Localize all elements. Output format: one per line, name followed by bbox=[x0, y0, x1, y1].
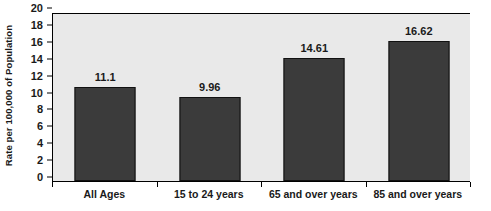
bar-group: 16.62 bbox=[367, 14, 472, 181]
x-axis-tick-label: 85 and over years bbox=[373, 188, 462, 201]
plot-area: 11.19.9614.6116.62 bbox=[52, 13, 470, 182]
bar-group: 14.61 bbox=[262, 14, 367, 181]
bars-layer: 11.19.9614.6116.62 bbox=[53, 14, 470, 181]
x-axis-tick-mark bbox=[157, 182, 158, 187]
bar bbox=[388, 41, 449, 181]
x-axis-tick-mark bbox=[52, 182, 53, 187]
x-axis-tick-labels: All Ages15 to 24 years65 and over years8… bbox=[52, 188, 470, 208]
bar-value-label: 9.96 bbox=[199, 82, 220, 93]
y-axis-title: Rate per 100,000 of Population bbox=[0, 0, 17, 190]
y-axis-tick-label: 4 bbox=[37, 138, 43, 149]
x-axis-tick-label: All Ages bbox=[83, 188, 125, 201]
x-axis-tick-mark bbox=[261, 182, 262, 187]
x-axis-tick-label: 15 to 24 years bbox=[174, 188, 243, 201]
x-axis-tick-label: 65 and over years bbox=[269, 188, 358, 201]
y-axis-tick-label: 18 bbox=[31, 19, 43, 30]
y-axis-tick-label: 2 bbox=[37, 155, 43, 166]
y-axis-tick-label: 14 bbox=[31, 53, 43, 64]
bar-chart: Rate per 100,000 of Population 024681012… bbox=[0, 0, 491, 211]
bar bbox=[75, 87, 136, 181]
y-axis-tick-label: 12 bbox=[31, 70, 43, 81]
y-axis-tick-label: 0 bbox=[37, 172, 43, 183]
y-axis-tick-label: 10 bbox=[31, 87, 43, 98]
x-axis-tick-mark bbox=[470, 182, 471, 187]
y-axis-tick-label: 16 bbox=[31, 36, 43, 47]
bar-value-label: 16.62 bbox=[405, 26, 433, 37]
y-axis-tick-label: 6 bbox=[37, 121, 43, 132]
bar-group: 11.1 bbox=[53, 14, 158, 181]
bar-value-label: 11.1 bbox=[95, 72, 116, 83]
x-axis-tick-mark bbox=[366, 182, 367, 187]
y-axis-tick-label: 20 bbox=[31, 3, 43, 14]
bar bbox=[179, 97, 240, 181]
y-axis-title-text: Rate per 100,000 of Population bbox=[3, 24, 14, 165]
bar bbox=[284, 58, 345, 181]
y-axis-tick-mark bbox=[47, 8, 52, 9]
y-axis-tick-label: 8 bbox=[37, 104, 43, 115]
bar-value-label: 14.61 bbox=[300, 43, 328, 54]
bar-group: 9.96 bbox=[158, 14, 263, 181]
y-axis-tick-labels: 02468101214161820 bbox=[17, 8, 44, 182]
